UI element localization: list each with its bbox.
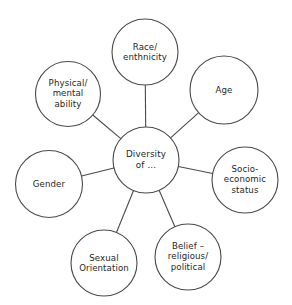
connector-socio [178,167,212,174]
node-circle-belief-religious-political[interactable] [155,224,221,290]
connector-physical [93,115,121,139]
connector-sexual-orientation [116,191,133,233]
node-circles-group [16,19,279,296]
node-circle-gender[interactable] [16,151,83,218]
node-circle-sexual-orientation[interactable] [71,230,137,296]
node-circle-age[interactable] [190,56,258,124]
node-circle-physical-mental-ability[interactable] [36,62,101,127]
node-circle-race-enthnicity[interactable] [112,19,178,85]
connector-age [171,113,199,138]
node-circle-diversity-of[interactable] [113,127,179,193]
diagram-canvas [0,0,292,305]
node-circle-socio-economic-status[interactable] [212,147,278,213]
connector-belief [159,190,175,226]
diversity-diagram: Race/ enthnicityAgeSocio- economic statu… [0,0,292,305]
connector-gender [82,168,114,176]
